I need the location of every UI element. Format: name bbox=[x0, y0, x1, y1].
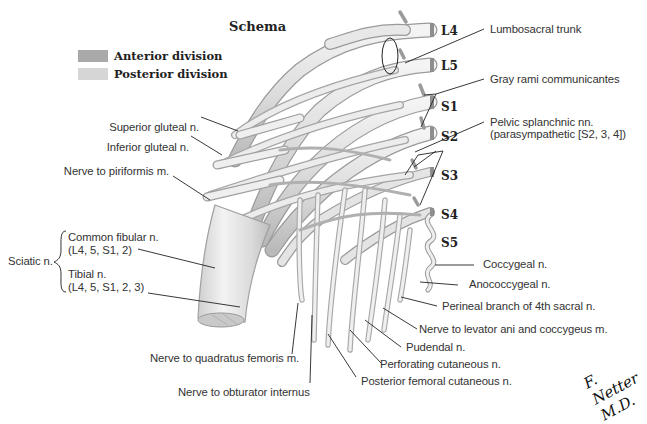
label-tibial: Tibial n. bbox=[68, 268, 106, 281]
label-sciatic: Sciatic n. bbox=[8, 255, 53, 268]
label-tibial-roots: (L4, 5, S1, 2, 3) bbox=[68, 281, 144, 294]
label-obturator-internus: Nerve to obturator internus bbox=[178, 386, 310, 399]
segment-s4: S4 bbox=[441, 209, 458, 222]
segment-s2: S2 bbox=[441, 131, 458, 144]
legend-label: Anterior division bbox=[114, 49, 222, 63]
segment-s1: S1 bbox=[441, 101, 458, 114]
anterior-swatch bbox=[78, 50, 108, 62]
label-pelvic-splanchnic-note: (parasympathetic [S2, 3, 4]) bbox=[490, 128, 626, 141]
label-common-fibular: Common fibular n. bbox=[68, 231, 159, 244]
segment-l4: L4 bbox=[441, 25, 458, 38]
label-perforating-cutaneous: Perforating cutaneous n. bbox=[380, 358, 501, 371]
segment-s5: S5 bbox=[441, 237, 458, 250]
legend-anterior: Anterior division bbox=[78, 49, 222, 63]
legend-posterior: Posterior division bbox=[78, 67, 228, 81]
legend-label: Posterior division bbox=[114, 67, 228, 81]
label-posterior-femoral-cutaneous: Posterior femoral cutaneous n. bbox=[361, 375, 512, 388]
diagram-title: Schema bbox=[229, 19, 286, 34]
segment-l5: L5 bbox=[441, 60, 458, 73]
label-levator-ani: Nerve to levator ani and coccygeus m. bbox=[419, 323, 607, 336]
label-gray-rami: Gray rami communicantes bbox=[490, 73, 620, 86]
label-superior-gluteal: Superior gluteal n. bbox=[109, 121, 199, 134]
label-inferior-gluteal: Inferior gluteal n. bbox=[107, 141, 189, 154]
label-pudendal: Pudendal n. bbox=[406, 341, 465, 354]
posterior-swatch bbox=[78, 68, 108, 80]
label-lumbosacral-trunk: Lumbosacral trunk bbox=[490, 23, 581, 36]
label-piriformis: Nerve to piriformis m. bbox=[64, 165, 169, 178]
label-perineal-branch: Perineal branch of 4th sacral n. bbox=[442, 300, 595, 313]
label-anococcygeal: Anococcygeal n. bbox=[469, 278, 550, 291]
label-common-fibular-roots: (L4, 5, S1, 2) bbox=[68, 244, 132, 257]
label-coccygeal: Coccygeal n. bbox=[483, 258, 547, 271]
label-quadratus-femoris: Nerve to quadratus femoris m. bbox=[150, 352, 299, 365]
segment-s3: S3 bbox=[441, 170, 458, 183]
